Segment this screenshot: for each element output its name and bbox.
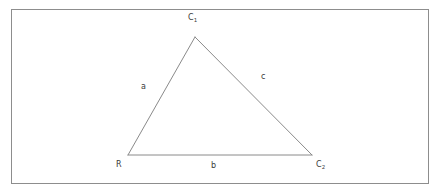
vertex-label-subscript: 2 [322, 164, 326, 170]
vertex-label-c1: C1 [188, 13, 197, 22]
triangle-diagram-figure: C1 R C2 a b c [0, 0, 443, 194]
side-label-c: c [261, 72, 266, 81]
side-label-a: a [141, 82, 146, 91]
vertex-label-r: R [116, 160, 122, 169]
vertex-label-subscript: 1 [194, 17, 198, 23]
diagram-canvas [0, 0, 443, 194]
diagram-frame-border [12, 10, 429, 184]
side-label-b: b [211, 161, 216, 170]
vertex-label-c2: C2 [316, 160, 325, 169]
